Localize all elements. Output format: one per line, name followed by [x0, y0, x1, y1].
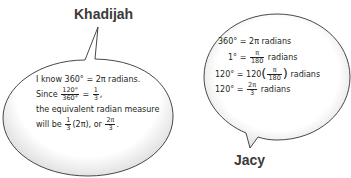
- khadijah-explanation: I know 360° = 2π radians. Since 120°360°…: [36, 72, 159, 132]
- khadijah-line-3: the equivalent radian measure: [36, 102, 159, 117]
- khadijah-line-2: Since 120°360° = 13,: [36, 87, 159, 102]
- fraction: 13: [93, 87, 99, 102]
- fraction: π180: [267, 67, 281, 82]
- jacy-explanation: 360° = 2π radians 1° = π180 radians 120°…: [218, 34, 320, 98]
- jacy-line-1: 360° = 2π radians: [218, 34, 320, 50]
- fraction: 13: [65, 117, 71, 132]
- fraction: 2π3: [247, 82, 257, 97]
- khadijah-name: Khadijah: [74, 6, 133, 22]
- jacy-line-2: 1° = π180 radians: [218, 50, 320, 66]
- jacy-line-3: 120° = 120(π180) radians: [215, 66, 320, 82]
- jacy-line-4: 120° = 2π3 radians: [215, 82, 320, 98]
- jacy-name: Jacy: [234, 152, 265, 168]
- fraction: π180: [250, 50, 264, 65]
- fraction: 2π3: [105, 117, 115, 132]
- khadijah-line-1: I know 360° = 2π radians.: [36, 72, 159, 87]
- khadijah-line-4: will be 13(2π), or 2π3.: [36, 117, 159, 132]
- fraction: 120°360°: [61, 87, 79, 102]
